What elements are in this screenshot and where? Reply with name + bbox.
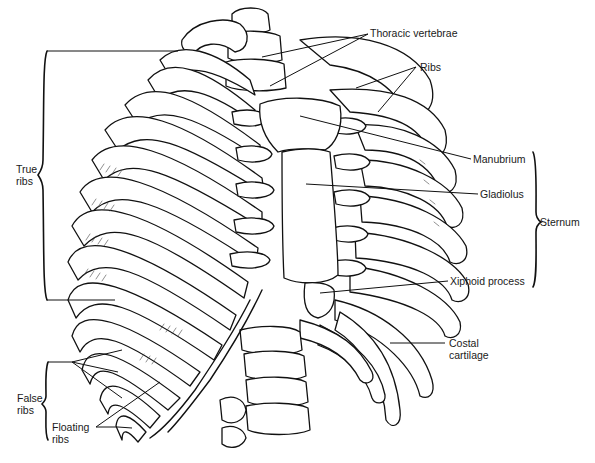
label-false-ribs-line2: ribs xyxy=(17,404,34,416)
label-sternum: Sternum xyxy=(540,216,580,228)
label-ribs: Ribs xyxy=(420,61,441,73)
label-floating-ribs-line1: Floating xyxy=(52,421,89,433)
label-thoracic-vertebrae: Thoracic vertebrae xyxy=(370,27,458,39)
label-floating-ribs-line2: ribs xyxy=(52,433,69,445)
label-costal-cartilage-line1: Costal xyxy=(449,337,479,349)
label-costal-cartilage-line2: cartilage xyxy=(449,349,489,361)
true-ribs-brace xyxy=(38,51,47,300)
label-manubrium: Manubrium xyxy=(473,153,526,165)
label-true-ribs-line2: ribs xyxy=(16,175,33,187)
label-false-ribs-line1: False xyxy=(17,392,43,404)
label-gladiolus: Gladiolus xyxy=(480,188,524,200)
manubrium-shape xyxy=(260,98,341,152)
xiphoid-shape xyxy=(304,283,334,318)
gladiolus-shape xyxy=(282,149,338,283)
label-true-ribs-line1: True xyxy=(16,163,37,175)
thoracic-cage-illustration xyxy=(0,0,595,463)
label-xiphoid-process: Xiphoid process xyxy=(450,275,525,287)
sternum-bones xyxy=(260,98,341,318)
